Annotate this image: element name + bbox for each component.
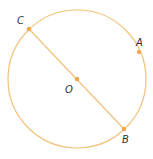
point-A: [137, 50, 141, 54]
label-B: B: [122, 134, 129, 145]
label-C: C: [17, 15, 24, 26]
point-B: [122, 127, 126, 131]
point-O: [75, 77, 79, 81]
label-A: A: [135, 37, 143, 48]
circle-diagram: C A O B: [0, 0, 153, 159]
label-O: O: [65, 84, 73, 95]
point-C: [27, 27, 31, 31]
